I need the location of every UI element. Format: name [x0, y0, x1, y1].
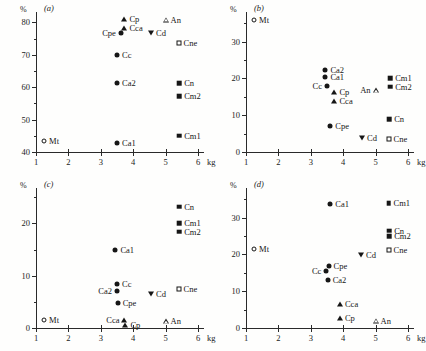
- data-point-label: Cpe: [123, 299, 137, 308]
- filled-circle-marker-icon: [115, 81, 120, 86]
- data-point: An: [376, 321, 382, 326]
- x-tick: [376, 325, 377, 332]
- filled-square-marker-icon: [177, 229, 182, 234]
- filled-dtriangle-marker-icon: [148, 31, 154, 36]
- data-point-label: Cc: [313, 82, 322, 91]
- filled-dtriangle-marker-icon: [359, 136, 365, 141]
- x-tick: [408, 149, 409, 156]
- y-tick-label: 40: [6, 148, 30, 156]
- x-tick: [376, 149, 377, 156]
- data-point-label: Ca1: [335, 200, 349, 209]
- y-tick-label: 30: [216, 38, 240, 46]
- x-tick: [68, 325, 69, 332]
- x-tick-label: 5: [366, 334, 386, 342]
- open-circle-marker-icon: [42, 318, 47, 323]
- y-tick-minor: [244, 236, 248, 237]
- y-tick-minor: [34, 39, 38, 40]
- x-axis-line: [242, 152, 414, 153]
- y-tick-major: [242, 115, 247, 116]
- x-tick: [278, 149, 279, 156]
- filled-circle-marker-icon: [325, 83, 330, 88]
- filled-square-marker-icon: [177, 94, 182, 99]
- data-point-label: An: [171, 317, 181, 326]
- x-tick-label: 2: [58, 334, 78, 342]
- filled-circle-marker-icon: [324, 269, 329, 274]
- y-tick-label: 0: [216, 324, 240, 332]
- x-tick-label: 1: [236, 158, 256, 166]
- y-tick-minor: [244, 310, 248, 311]
- filled-square-marker-icon: [177, 221, 182, 226]
- filled-circle-marker-icon: [323, 68, 328, 73]
- data-point-label: Cp: [345, 313, 355, 322]
- data-point-label: Ca2: [333, 276, 347, 285]
- data-point-label: Cne: [184, 38, 198, 47]
- filled-circle-marker-icon: [325, 278, 330, 283]
- filled-triangle-marker-icon: [337, 315, 343, 320]
- data-point-label: Cc: [312, 267, 321, 276]
- filled-square-marker-icon: [177, 134, 182, 139]
- data-point-label: Ca1: [120, 245, 134, 254]
- y-tick-label: 10: [216, 287, 240, 295]
- open-triangle-marker-icon: [373, 318, 379, 323]
- x-axis-line: [32, 328, 204, 329]
- x-tick-label: 6: [398, 334, 418, 342]
- panel-label: (a): [44, 4, 54, 12]
- filled-triangle-marker-icon: [331, 90, 337, 95]
- x-tick: [278, 325, 279, 332]
- filled-circle-marker-icon: [113, 247, 118, 252]
- y-axis-unit: %: [20, 6, 27, 14]
- filled-triangle-marker-icon: [121, 17, 127, 22]
- data-point-label: Cc: [122, 279, 131, 288]
- data-point-label: Mt: [259, 245, 269, 254]
- data-point-label: Cpe: [335, 122, 349, 131]
- data-point-label: Ca2: [98, 287, 112, 296]
- data-point-label: An: [360, 86, 370, 95]
- data-point-label: An: [381, 316, 391, 325]
- x-tick: [311, 325, 312, 332]
- data-point-label: Cd: [367, 134, 377, 143]
- filled-circle-marker-icon: [326, 263, 331, 268]
- x-tick-label: 4: [123, 334, 143, 342]
- data-point-label: Cca: [129, 24, 142, 33]
- x-tick: [36, 149, 37, 156]
- open-triangle-marker-icon: [373, 88, 379, 93]
- chart-panel-a: 4050607080123456%kg(a)MtCa1Ca2CcCpeCcaCp…: [0, 0, 209, 175]
- x-tick-label: 2: [268, 334, 288, 342]
- y-tick-label: 70: [6, 51, 30, 59]
- filled-circle-marker-icon: [115, 281, 120, 286]
- data-point-label: Cc: [122, 51, 131, 60]
- panel-label: (d): [254, 180, 264, 188]
- filled-circle-marker-icon: [323, 74, 328, 79]
- filled-square-marker-icon: [177, 81, 182, 86]
- x-tick-label: 1: [26, 334, 46, 342]
- filled-circle-marker-icon: [328, 124, 333, 129]
- filled-square-marker-icon: [177, 204, 182, 209]
- data-point-label: Cca: [345, 300, 358, 309]
- x-tick: [198, 325, 199, 332]
- panel-label: (c): [44, 180, 53, 188]
- x-tick: [166, 149, 167, 156]
- y-tick-label: 80: [6, 18, 30, 26]
- filled-square-marker-icon: [388, 84, 393, 89]
- y-tick-major: [32, 22, 37, 23]
- y-axis-line: [246, 12, 247, 152]
- y-tick-major: [32, 87, 37, 88]
- y-tick-label: 10: [216, 111, 240, 119]
- data-point-label: Cne: [394, 246, 408, 255]
- y-tick-minor: [34, 302, 38, 303]
- y-tick-minor: [244, 97, 248, 98]
- x-tick-label: 6: [398, 158, 418, 166]
- y-tick-minor: [34, 136, 38, 137]
- y-tick-label: 20: [216, 250, 240, 258]
- open-circle-marker-icon: [42, 138, 47, 143]
- x-tick: [343, 149, 344, 156]
- filled-square-marker-icon: [387, 117, 392, 122]
- y-tick-label: 60: [6, 83, 30, 91]
- open-square-marker-icon: [176, 286, 181, 291]
- y-axis-unit: %: [20, 182, 27, 190]
- x-tick: [246, 149, 247, 156]
- filled-square-marker-icon: [387, 228, 392, 233]
- data-point-label: Cp: [129, 15, 139, 24]
- y-tick-major: [242, 218, 247, 219]
